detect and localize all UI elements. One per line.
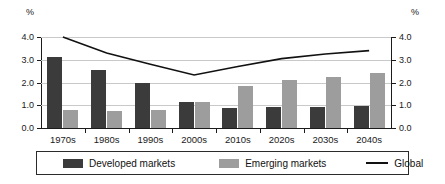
x-tick-mark bbox=[85, 129, 86, 133]
legend-item-label: Emerging markets bbox=[245, 158, 326, 169]
legend-item-label: Developed markets bbox=[89, 158, 175, 169]
chart-figure: % % 4.03.02.01.00.0 4.03.02.01.00.0 1970… bbox=[0, 0, 445, 184]
legend-item[interactable]: Developed markets bbox=[63, 158, 175, 169]
right-y-tick-label: 1.0 bbox=[399, 101, 412, 110]
axis-tick-mark bbox=[37, 37, 41, 38]
axis-tick-mark bbox=[392, 128, 396, 129]
axis-tick-mark bbox=[392, 37, 396, 38]
x-tick-mark bbox=[347, 129, 348, 133]
axis-tick-mark bbox=[392, 105, 396, 106]
axis-tick-mark bbox=[37, 105, 41, 106]
axis-tick-mark bbox=[37, 60, 41, 61]
left-axis-unit-label: % bbox=[26, 8, 34, 17]
x-tick-label: 2000s bbox=[172, 134, 216, 145]
axis-tick-mark bbox=[392, 60, 396, 61]
axis-tick-mark bbox=[37, 128, 41, 129]
x-tick-label: 2040s bbox=[347, 134, 391, 145]
x-tick-label: 1990s bbox=[129, 134, 173, 145]
right-y-tick-label: 4.0 bbox=[399, 33, 412, 42]
legend-item[interactable]: Emerging markets bbox=[219, 158, 326, 169]
x-tick-mark bbox=[129, 129, 130, 133]
x-tick-label: 2020s bbox=[260, 134, 304, 145]
left-y-tick-label: 4.0 bbox=[21, 33, 34, 42]
x-tick-label: 2010s bbox=[216, 134, 260, 145]
x-tick-mark bbox=[216, 129, 217, 133]
left-y-tick-label: 2.0 bbox=[21, 79, 34, 88]
plot-area bbox=[41, 37, 391, 128]
chart-legend: Developed marketsEmerging marketsGlobal bbox=[36, 151, 409, 175]
global-line-series bbox=[41, 37, 391, 128]
left-y-tick-label: 0.0 bbox=[21, 124, 34, 133]
x-tick-mark bbox=[172, 129, 173, 133]
legend-item[interactable]: Global bbox=[366, 158, 423, 169]
dark-square-swatch-icon bbox=[63, 159, 83, 168]
x-tick-mark bbox=[260, 129, 261, 133]
right-y-tick-label: 2.0 bbox=[399, 79, 412, 88]
right-y-tick-label: 0.0 bbox=[399, 124, 412, 133]
legend-item-label: Global bbox=[394, 158, 423, 169]
left-y-tick-label: 3.0 bbox=[21, 56, 34, 65]
axis-tick-mark bbox=[392, 83, 396, 84]
axis-tick-mark bbox=[37, 83, 41, 84]
gray-square-swatch-icon bbox=[219, 159, 239, 168]
x-tick-label: 1980s bbox=[85, 134, 129, 145]
x-tick-mark bbox=[304, 129, 305, 133]
x-tick-label: 2030s bbox=[304, 134, 348, 145]
left-y-tick-label: 1.0 bbox=[21, 101, 34, 110]
line-swatch-icon bbox=[366, 162, 388, 164]
x-tick-label: 1970s bbox=[41, 134, 85, 145]
right-y-tick-label: 3.0 bbox=[399, 56, 412, 65]
right-axis-unit-label: % bbox=[411, 8, 419, 17]
